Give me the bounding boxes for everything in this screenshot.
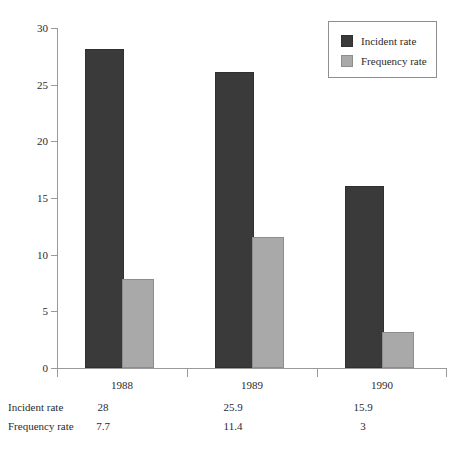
y-tick-label: 0 [43,363,49,374]
table-cell: 11.4 [224,417,243,436]
table-cell: 3 [360,417,366,436]
x-axis-category-label: 1990 [371,380,393,391]
data-table: Incident rate2825.915.9Frequency rate7.7… [0,398,463,436]
y-tick-mark [51,255,57,256]
y-tick-mark [51,141,57,142]
legend-label: Incident rate [361,36,416,47]
plot-area: 051015202530 198819891990 [57,28,447,368]
y-tick-label: 30 [37,23,48,34]
chart-page: 051015202530 198819891990 Incident rateF… [0,0,463,464]
bar-incident-rate-1988 [85,49,124,368]
legend-swatch-icon [341,35,353,47]
bar-frequency-rate-1988 [122,279,154,368]
y-tick-label: 10 [37,249,48,260]
bar-incident-rate-1990 [345,186,384,368]
x-axis-line [57,368,447,369]
legend-label: Frequency rate [361,56,427,67]
table-row: Incident rate2825.915.9 [0,398,463,417]
table-cell: 25.9 [223,398,242,417]
y-tick-mark [51,85,57,86]
table-row: Frequency rate7.711.43 [0,417,463,436]
table-cell: 15.9 [353,398,372,417]
y-tick-label: 25 [37,79,48,90]
legend-swatch-icon [341,55,353,67]
table-row-label: Frequency rate [8,417,74,436]
table-cell: 28 [98,398,109,417]
chart-legend: Incident rateFrequency rate [328,21,437,78]
bar-frequency-rate-1989 [252,237,284,368]
y-tick-label: 20 [37,136,48,147]
y-tick-mark [51,311,57,312]
x-axis-category-label: 1988 [111,380,133,391]
x-tick-mark [57,368,58,377]
y-tick-mark [51,28,57,29]
y-tick-label: 15 [37,193,48,204]
bar-incident-rate-1989 [215,72,254,368]
bar-frequency-rate-1990 [382,332,414,368]
y-tick-label: 5 [43,306,49,317]
x-tick-mark [446,368,447,377]
legend-item: Frequency rate [341,51,436,71]
table-cell: 7.7 [96,417,110,436]
x-tick-mark [187,368,188,377]
y-tick-mark [51,198,57,199]
x-tick-mark [317,368,318,377]
legend-item: Incident rate [341,31,436,51]
y-axis-line [57,28,58,368]
x-axis-category-label: 1989 [241,380,263,391]
table-row-label: Incident rate [8,398,63,417]
